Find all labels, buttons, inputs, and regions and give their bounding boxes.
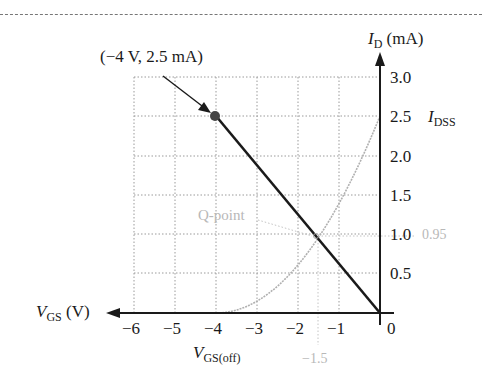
y-tick-3-0: 3.0: [390, 69, 411, 86]
y-tick-2-5: 2.5: [390, 108, 411, 125]
y-axis-title-main: I: [368, 29, 374, 48]
vgs-off-label-sub: GS(off): [203, 351, 240, 365]
x-tick-neg6: −6: [122, 320, 140, 337]
point-label: (−4 V, 2.5 mA): [100, 48, 203, 65]
x-tick-neg3: −3: [245, 320, 263, 337]
y-axis-title: ID (mA): [368, 30, 423, 47]
point-pointer-line: [163, 76, 206, 109]
y-tick-0-5: 0.5: [390, 265, 411, 282]
x-tick-neg4: −4: [204, 320, 222, 337]
vgs-off-label: VGS(off): [193, 344, 241, 361]
x-axis-title-main: V: [36, 302, 46, 321]
x-axis-title-unit: (V): [66, 302, 90, 321]
y-tick-1-5: 1.5: [390, 187, 411, 204]
y-tick-1-0: 1.0: [390, 226, 411, 243]
x-axis-title-sub: GS: [46, 310, 61, 324]
x-tick-0: 0: [387, 320, 396, 337]
q-point-id-label: 0.95: [422, 228, 447, 242]
x-tick-neg2: −2: [286, 320, 304, 337]
axes: [118, 62, 394, 325]
point-marker: [210, 111, 220, 121]
y-tick-2-0: 2.0: [390, 148, 411, 165]
q-point-label: Q-point: [198, 208, 245, 223]
x-tick-neg5: −5: [163, 320, 181, 337]
idss-label: IDSS: [428, 108, 456, 125]
y-axis-arrow-icon: [375, 52, 385, 66]
q-point-vgs-label: −1.5: [302, 352, 327, 366]
x-tick-neg1: −1: [327, 320, 345, 337]
idss-label-sub: DSS: [434, 115, 456, 129]
idss-label-main: I: [428, 107, 434, 126]
vgs-off-label-main: V: [193, 343, 203, 362]
x-axis-arrow-icon: [106, 308, 120, 318]
y-axis-title-sub: D: [374, 37, 383, 51]
x-axis-title: VGS (V): [36, 303, 90, 320]
y-axis-title-unit: (mA): [387, 29, 424, 48]
